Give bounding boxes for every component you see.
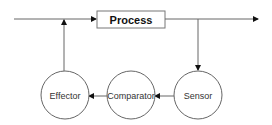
effector-label: Effector — [50, 92, 81, 101]
sensor-label: Sensor — [184, 92, 213, 101]
process-label: Process — [110, 14, 153, 25]
comparator-label: Comparator — [107, 92, 155, 101]
